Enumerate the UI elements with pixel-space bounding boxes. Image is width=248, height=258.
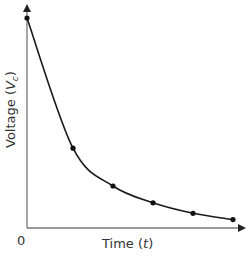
decay-curve [27,18,233,220]
chart: 0 Time (t) Voltage (Vc) [0,0,248,258]
data-point [230,217,235,222]
data-point [24,15,29,20]
y-axis-label: Voltage (Vc) [3,71,20,148]
data-point [70,146,75,151]
data-point [110,183,115,188]
origin-label: 0 [17,233,25,248]
data-point [150,200,155,205]
x-axis-label: Time (t) [101,236,153,251]
data-points [24,15,235,222]
data-point [190,211,195,216]
